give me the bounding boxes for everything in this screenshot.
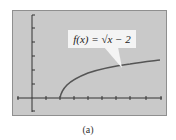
function-label: f(x) = √x − 2 bbox=[68, 30, 136, 48]
callout-pointer bbox=[104, 47, 122, 68]
function-curve bbox=[60, 60, 160, 98]
function-plot bbox=[0, 0, 176, 140]
figure-caption: (a) bbox=[0, 124, 176, 135]
